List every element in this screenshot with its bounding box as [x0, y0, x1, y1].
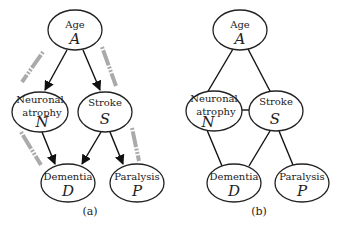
edge-a-to-s: [83, 50, 100, 90]
node-label: Dementia: [44, 171, 93, 182]
node-symbol: A: [68, 30, 81, 48]
node-paralysis: Paralysis P: [110, 164, 164, 202]
edge-n-d: [207, 130, 222, 166]
panel-caption: (b): [251, 205, 267, 218]
node-stroke: Stroke S: [78, 92, 132, 132]
panel-b: Age A Neuronal atrophy N Stroke S Dement…: [186, 10, 329, 218]
node-symbol: P: [296, 182, 308, 200]
node-label-line1: Neuronal: [16, 94, 64, 105]
edge-a-to-n: [45, 50, 67, 90]
highlight-band-n-d: [21, 132, 41, 165]
node-neuronal-atrophy: Neuronal atrophy N: [186, 91, 242, 131]
node-paralysis: Paralysis P: [275, 164, 329, 202]
node-label: Dementia: [210, 171, 259, 182]
node-label: Age: [64, 19, 85, 30]
node-symbol: S: [100, 110, 110, 128]
edge-s-p: [279, 131, 293, 165]
edge-n-to-d: [42, 132, 55, 164]
edge-s-d: [249, 131, 270, 166]
edge-s-to-p: [110, 132, 123, 164]
node-label: Stroke: [88, 97, 122, 108]
node-label-line1: Neuronal: [190, 93, 238, 104]
node-dementia: Dementia D: [207, 164, 261, 202]
node-symbol: N: [200, 113, 215, 131]
highlight-band-a-s: [102, 47, 116, 86]
node-stroke: Stroke S: [249, 91, 303, 131]
node-symbol: A: [233, 30, 246, 48]
diagram-canvas: Age A Neuronal atrophy N Stroke S Dement…: [0, 0, 350, 228]
node-label: Age: [229, 19, 250, 30]
edge-a-s: [248, 49, 271, 93]
highlight-band-a-n: [22, 52, 43, 82]
node-age: Age A: [48, 10, 102, 50]
node-label: Paralysis: [279, 171, 324, 182]
node-age: Age A: [213, 10, 267, 50]
panel-caption: (a): [82, 205, 97, 218]
edge-s-to-d: [82, 132, 101, 164]
panel-a: Age A Neuronal atrophy N Stroke S Dement…: [12, 10, 164, 218]
node-symbol: P: [131, 182, 143, 200]
node-dementia: Dementia D: [41, 164, 95, 202]
node-label: Paralysis: [114, 171, 159, 182]
node-label: Stroke: [259, 96, 293, 107]
edge-a-n: [207, 49, 233, 93]
node-symbol: D: [227, 182, 240, 200]
node-symbol: D: [61, 182, 74, 200]
highlight-band-s-p: [132, 128, 139, 161]
node-symbol: S: [270, 110, 280, 128]
node-symbol: N: [34, 113, 49, 131]
node-neuronal-atrophy: Neuronal atrophy N: [12, 92, 68, 132]
